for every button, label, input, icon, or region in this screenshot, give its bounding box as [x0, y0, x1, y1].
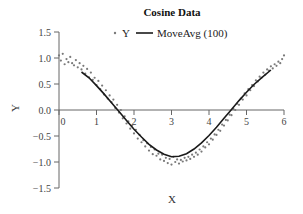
scatter-point	[60, 60, 62, 62]
scatter-point	[202, 145, 204, 147]
scatter-point	[234, 109, 236, 111]
scatter-point	[133, 132, 135, 134]
scatter-point	[193, 156, 195, 158]
scatter-point	[189, 158, 191, 160]
scatter-point	[238, 104, 240, 106]
scatter-point	[178, 162, 180, 164]
scatter-point	[187, 156, 189, 158]
y-tick-label: −0.5	[33, 131, 51, 142]
y-tick-label: 0.0	[39, 105, 52, 116]
scatter-point	[245, 94, 247, 96]
scatter-point	[80, 68, 82, 70]
scatter-point	[109, 94, 111, 96]
x-tick-label: 6	[282, 116, 287, 127]
scatter-point	[259, 76, 261, 78]
scatter-point	[281, 58, 283, 60]
scatter-point	[217, 129, 219, 131]
scatter-point	[223, 125, 225, 127]
scatter-point	[82, 65, 84, 67]
scatter-point	[105, 89, 107, 91]
scatter-point	[125, 122, 127, 124]
scatter-point	[77, 66, 79, 68]
scatter-point	[206, 141, 208, 143]
scatter-point	[283, 54, 285, 56]
scatter-point	[227, 119, 229, 121]
scatter-point	[129, 128, 131, 130]
scatter-point	[279, 62, 281, 64]
x-tick-label: 4	[207, 116, 212, 127]
chart-title: Cosine Data	[143, 6, 201, 18]
scatter-point	[184, 157, 186, 159]
scatter-point	[71, 62, 73, 64]
scatter-point	[148, 149, 150, 151]
scatter-point	[191, 154, 193, 156]
y-tick-label: 1.5	[39, 27, 52, 38]
scatter-point	[97, 80, 99, 82]
scatter-point	[157, 153, 159, 155]
legend: Y MoveAvg (100)	[114, 27, 228, 40]
scatter-point	[152, 153, 154, 155]
scatter-point	[167, 162, 169, 164]
scatter-point	[67, 61, 69, 63]
scatter-point	[180, 159, 182, 161]
axes: 1.51.00.50.0−0.5−1.0−1.50123456	[33, 27, 287, 194]
scatter-point	[270, 65, 272, 67]
scatter-point	[215, 134, 217, 136]
scatter-point	[79, 62, 81, 64]
scatter-point	[277, 61, 279, 63]
scatter-point	[86, 68, 88, 70]
scatter-point	[208, 143, 210, 145]
scatter-point	[219, 130, 221, 132]
x-tick-label: 3	[169, 116, 174, 127]
y-tick-label: −1.0	[33, 157, 51, 168]
moving-average-series	[82, 70, 271, 157]
scatter-point	[116, 104, 118, 106]
scatter-point	[75, 59, 77, 61]
scatter-point	[159, 158, 161, 160]
scatter-point	[274, 63, 276, 65]
legend-scatter-marker	[114, 32, 116, 34]
x-axis-label: X	[168, 193, 176, 205]
scatter-point	[62, 53, 64, 55]
y-tick-label: 0.5	[39, 79, 52, 90]
x-tick-label: 1	[94, 116, 99, 127]
y-tick-label: 1.0	[39, 53, 52, 64]
scatter-point	[73, 64, 75, 66]
scatter-point	[176, 158, 178, 160]
scatter-point	[272, 67, 274, 69]
scatter-point	[120, 109, 122, 111]
moving-average-line	[82, 70, 271, 157]
scatter-point	[197, 154, 199, 156]
scatter-point	[242, 99, 244, 101]
scatter-point	[69, 56, 71, 58]
scatter-point	[169, 158, 171, 160]
scatter-point	[200, 151, 202, 153]
scatter-point	[214, 133, 216, 135]
scatter-point	[170, 164, 172, 166]
scatter-point	[199, 148, 201, 150]
scatter-point	[155, 155, 157, 157]
scatter-point	[195, 152, 197, 154]
scatter-point	[262, 71, 264, 73]
scatter-point	[230, 114, 232, 116]
scatter-point	[185, 159, 187, 161]
scatter-point	[210, 138, 212, 140]
legend-label-moveavg: MoveAvg (100)	[157, 27, 228, 40]
scatter-point	[144, 145, 146, 147]
scatter-point	[137, 138, 139, 140]
scatter-point	[225, 119, 227, 121]
scatter-point	[221, 123, 223, 125]
scatter-point	[94, 77, 96, 79]
y-tick-label: −1.5	[33, 183, 51, 194]
scatter-point	[174, 161, 176, 163]
scatter-point	[212, 139, 214, 141]
scatter-point	[275, 65, 277, 67]
y-axis-label: Y	[9, 104, 21, 112]
scatter-series	[58, 53, 285, 166]
scatter-point	[112, 99, 114, 101]
scatter-point	[204, 146, 206, 148]
scatter-point	[90, 71, 92, 73]
scatter-point	[163, 160, 165, 162]
scatter-point	[101, 84, 103, 86]
scatter-point	[65, 58, 67, 60]
